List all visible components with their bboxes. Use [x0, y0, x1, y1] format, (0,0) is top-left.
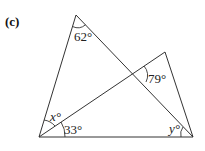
angle-arc-y [181, 127, 183, 137]
angle-arc-top [73, 25, 86, 28]
part-label: (c) [5, 14, 19, 29]
angle-label-top: 62° [74, 29, 92, 44]
bottom-left-to-right-apex [39, 52, 165, 137]
top-to-bottom-right-side [76, 15, 193, 137]
angle-label-y: y° [167, 121, 180, 136]
angle-label-33: 33° [64, 122, 82, 137]
angle-label-x: x° [49, 109, 61, 124]
geometry-diagram: (c) 62° 79° x° 33° y° [0, 0, 205, 151]
angle-label-intersection: 79° [148, 71, 166, 86]
